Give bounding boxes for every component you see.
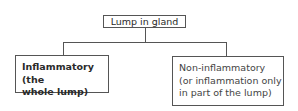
connector-root-down bbox=[145, 28, 146, 42]
non-inflammatory-label-line1: Non-inflammatory bbox=[179, 62, 283, 75]
non-inflammatory-node-box: Non-inflammatory (or inflammation only i… bbox=[172, 56, 284, 106]
connector-left-down bbox=[63, 42, 64, 55]
flowchart-diagram: Lump in gland Inflammatory (the whole lu… bbox=[0, 0, 298, 111]
non-inflammatory-label-line3: in part of the lump) bbox=[179, 87, 283, 100]
inflammatory-node-box: Inflammatory (the whole lump) bbox=[15, 55, 109, 93]
inflammatory-label-line2: whole lump) bbox=[22, 86, 108, 99]
root-node-box: Lump in gland bbox=[103, 15, 186, 28]
connector-right-down bbox=[226, 42, 227, 56]
inflammatory-label-line1: Inflammatory (the bbox=[22, 61, 108, 86]
non-inflammatory-label-line2: (or inflammation only bbox=[179, 75, 283, 88]
root-node-label: Lump in gland bbox=[111, 16, 179, 27]
connector-horizontal-branch bbox=[63, 42, 227, 43]
